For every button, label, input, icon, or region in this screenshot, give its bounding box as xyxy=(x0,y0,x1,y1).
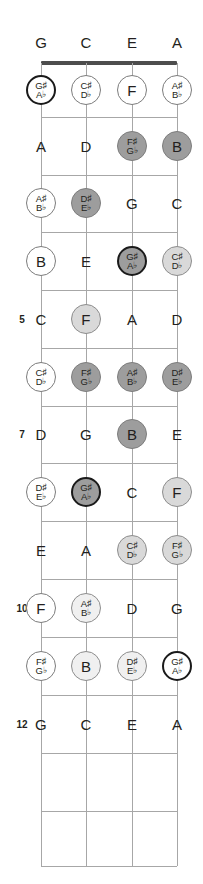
note-fret5-string4: D xyxy=(171,312,182,327)
note-fret4-string4: C♯D♭ xyxy=(162,246,192,276)
note-fret4-string1: B xyxy=(26,246,56,276)
fret-line-2 xyxy=(41,175,177,176)
note-fret2-string4-label: B xyxy=(172,139,182,154)
note-fret6-string4: D♯E♭ xyxy=(162,362,192,392)
note-fret12-string1: G xyxy=(35,717,47,732)
note-fret9-string3-flat-label: D♭ xyxy=(127,550,138,560)
note-fret9-string2: A xyxy=(81,543,91,558)
fret-line-7 xyxy=(41,463,177,464)
note-fret8-string4: F xyxy=(162,477,192,507)
note-fret11-string1: F♯G♭ xyxy=(26,651,56,681)
note-fret10-string1: F xyxy=(26,593,56,623)
note-fret7-string3: B xyxy=(117,419,147,449)
note-fret1-string4: A♯B♭ xyxy=(162,75,192,105)
note-fret6-string1-flat-label: D♭ xyxy=(36,377,47,387)
note-fret7-string1: D xyxy=(35,427,46,442)
string-line-3 xyxy=(132,63,133,866)
note-fret10-string1-label: F xyxy=(36,601,45,616)
fret-number-5: 5 xyxy=(19,314,25,325)
fret-line-6 xyxy=(41,406,177,407)
note-fret12-string2: C xyxy=(80,717,91,732)
note-fret6-string1: C♯D♭ xyxy=(26,362,56,392)
fret-line-10 xyxy=(41,637,177,638)
fret-number-12: 12 xyxy=(16,719,27,730)
note-fret1-string2-flat-label: D♭ xyxy=(81,90,92,100)
note-fret11-string1-flat-label: G♭ xyxy=(35,666,46,676)
string-label-3: E xyxy=(127,35,137,50)
fretboard-diagram: GCEA571012G♯A♭C♯D♭FA♯B♭ADF♯G♭BA♯B♭D♯E♭GC… xyxy=(0,0,203,884)
note-fret3-string2: D♯E♭ xyxy=(71,188,101,218)
note-fret6-string3: A♯B♭ xyxy=(117,362,147,392)
note-fret2-string3: F♯G♭ xyxy=(117,131,147,161)
note-fret3-string4: C xyxy=(171,196,182,211)
note-fret6-string2-flat-label: G♭ xyxy=(80,377,91,387)
note-fret12-string3: E xyxy=(127,717,137,732)
note-fret11-string2-label: B xyxy=(81,659,91,674)
note-fret7-string2: G xyxy=(80,427,92,442)
nut xyxy=(41,61,177,65)
string-line-4 xyxy=(177,63,178,866)
string-label-1: G xyxy=(35,35,47,50)
fret-line-13 xyxy=(41,811,177,812)
note-fret11-string3-flat-label: E♭ xyxy=(127,666,137,676)
note-fret11-string4: G♯A♭ xyxy=(162,651,192,681)
note-fret3-string1: A♯B♭ xyxy=(26,188,56,218)
note-fret2-string4: B xyxy=(162,131,192,161)
note-fret2-string1: A xyxy=(36,139,46,154)
string-line-1 xyxy=(41,63,42,866)
note-fret6-string3-flat-label: B♭ xyxy=(127,377,137,387)
string-label-4: A xyxy=(172,35,182,50)
note-fret6-string2: F♯G♭ xyxy=(71,362,101,392)
string-line-2 xyxy=(86,63,87,866)
note-fret8-string1-flat-label: E♭ xyxy=(36,492,46,502)
fret-line-8 xyxy=(41,521,177,522)
note-fret5-string2-label: F xyxy=(81,312,90,327)
note-fret4-string1-label: B xyxy=(36,254,46,269)
fret-line-14 xyxy=(41,866,177,867)
fret-line-12 xyxy=(41,753,177,754)
fret-number-7: 7 xyxy=(19,429,25,440)
string-label-2: C xyxy=(81,35,92,50)
fret-line-11 xyxy=(41,695,177,696)
fret-line-1 xyxy=(41,117,177,118)
note-fret11-string2: B xyxy=(71,651,101,681)
note-fret5-string3: A xyxy=(127,312,137,327)
fret-line-4 xyxy=(41,290,177,291)
note-fret4-string3-flat-label: A♭ xyxy=(127,261,137,271)
note-fret8-string1: D♯E♭ xyxy=(26,477,56,507)
note-fret10-string4: G xyxy=(171,601,183,616)
note-fret12-string4: A xyxy=(172,717,182,732)
note-fret4-string3: G♯A♭ xyxy=(117,246,147,276)
note-fret9-string3: C♯D♭ xyxy=(117,535,147,565)
note-fret8-string2: G♯A♭ xyxy=(71,477,101,507)
note-fret1-string4-flat-label: B♭ xyxy=(172,90,182,100)
note-fret1-string2: C♯D♭ xyxy=(71,75,101,105)
note-fret9-string1: E xyxy=(36,543,46,558)
note-fret11-string4-flat-label: A♭ xyxy=(172,666,182,676)
fret-line-5 xyxy=(41,348,177,349)
note-fret9-string4: F♯G♭ xyxy=(162,535,192,565)
note-fret10-string2: A♯B♭ xyxy=(71,593,101,623)
note-fret3-string1-flat-label: B♭ xyxy=(36,203,46,213)
note-fret3-string3: G xyxy=(126,196,138,211)
note-fret8-string3: C xyxy=(126,485,137,500)
note-fret1-string3: F xyxy=(117,75,147,105)
note-fret4-string4-flat-label: D♭ xyxy=(172,261,183,271)
note-fret10-string2-flat-label: B♭ xyxy=(81,608,91,618)
note-fret4-string2: E xyxy=(81,254,91,269)
note-fret5-string2: F xyxy=(71,304,101,334)
fret-line-9 xyxy=(41,579,177,580)
note-fret5-string1: C xyxy=(35,312,46,327)
note-fret1-string1-flat-label: A♭ xyxy=(36,90,46,100)
note-fret7-string3-label: B xyxy=(127,427,137,442)
note-fret7-string4: E xyxy=(172,427,182,442)
note-fret6-string4-flat-label: E♭ xyxy=(172,377,182,387)
note-fret2-string2: D xyxy=(80,139,91,154)
note-fret9-string4-flat-label: G♭ xyxy=(171,550,182,560)
note-fret10-string3: D xyxy=(126,601,137,616)
note-fret1-string3-label: F xyxy=(127,83,136,98)
note-fret11-string3: D♯E♭ xyxy=(117,651,147,681)
note-fret8-string2-flat-label: A♭ xyxy=(81,492,91,502)
note-fret3-string2-flat-label: E♭ xyxy=(81,203,91,213)
fret-line-3 xyxy=(41,232,177,233)
